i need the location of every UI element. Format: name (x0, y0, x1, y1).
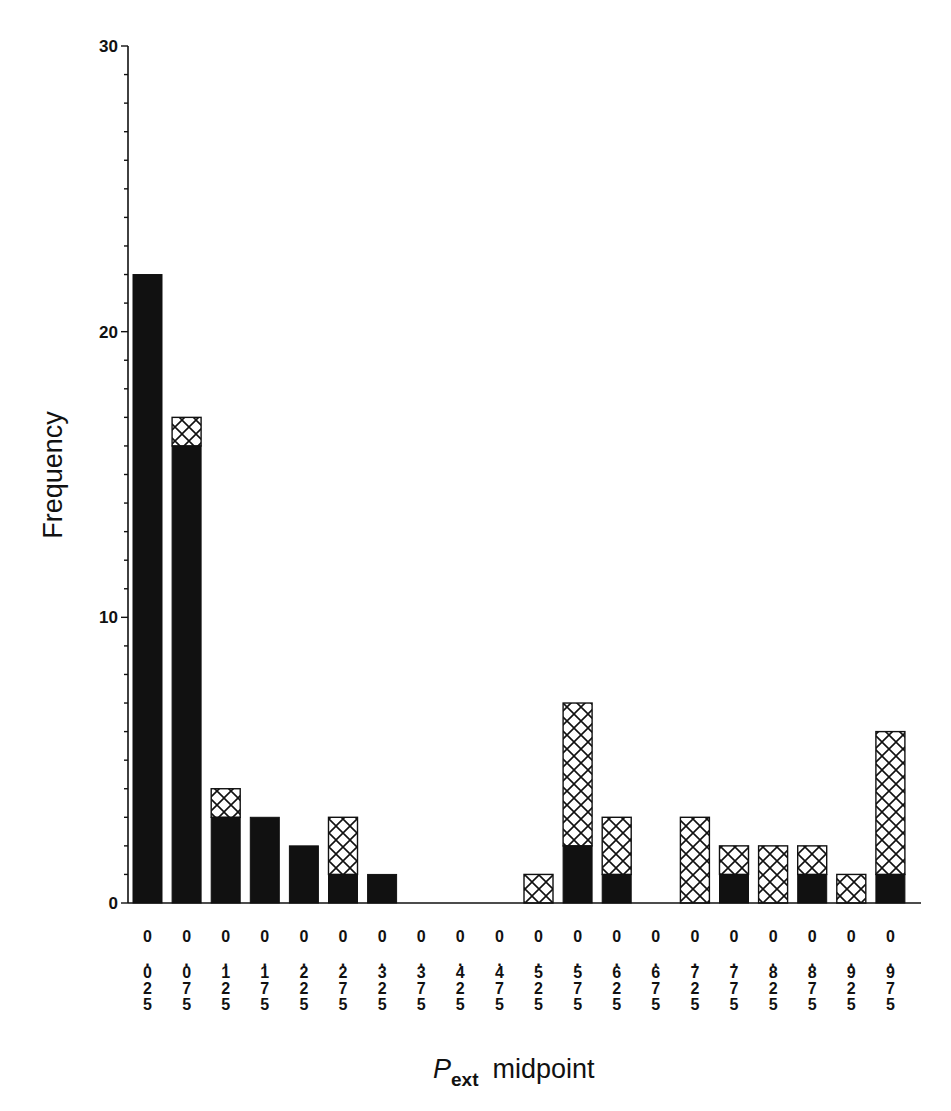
bar-segment-solid (289, 846, 318, 903)
x-tick-label: 0.725 (690, 928, 699, 1013)
bar-segment-solid (798, 874, 827, 903)
svg-text:7: 7 (730, 980, 739, 997)
svg-text:0: 0 (182, 928, 191, 945)
bar-segment-solid (563, 846, 592, 903)
y-tick-label: 20 (99, 323, 118, 342)
svg-text:0: 0 (182, 964, 191, 981)
svg-text:5: 5 (260, 996, 269, 1013)
svg-text:9: 9 (847, 964, 856, 981)
bar-0.625 (602, 817, 631, 903)
svg-text:1: 1 (260, 964, 269, 981)
bar-segment-solid (720, 874, 749, 903)
svg-text:0: 0 (847, 928, 856, 945)
svg-text:5: 5 (417, 996, 426, 1013)
bar-0.075 (172, 417, 201, 903)
svg-text:7: 7 (573, 980, 582, 997)
svg-text:0: 0 (378, 928, 387, 945)
svg-text:5: 5 (456, 996, 465, 1013)
bar-segment-solid (250, 817, 279, 903)
svg-text:0: 0 (690, 928, 699, 945)
svg-text:9: 9 (886, 964, 895, 981)
svg-text:3: 3 (417, 964, 426, 981)
svg-text:7: 7 (651, 980, 660, 997)
svg-text:0: 0 (299, 928, 308, 945)
svg-text:2: 2 (456, 980, 465, 997)
svg-text:1: 1 (221, 964, 230, 981)
svg-text:0: 0 (612, 928, 621, 945)
svg-text:2: 2 (847, 980, 856, 997)
bar-segment-solid (368, 874, 397, 903)
x-tick-label: 0.675 (651, 928, 660, 1013)
x-tick-label: 0.275 (339, 928, 348, 1013)
x-tick-label: 0.775 (730, 928, 739, 1013)
svg-text:3: 3 (378, 964, 387, 981)
x-axis: 0.0250.0750.1250.1750.2250.2750.3250.375… (128, 903, 921, 1013)
svg-text:5: 5 (221, 996, 230, 1013)
x-tick-label: 0.925 (847, 928, 856, 1013)
svg-text:8: 8 (808, 964, 817, 981)
bar-segment-hatched (837, 874, 866, 903)
bar-segment-solid (211, 817, 240, 903)
bar-0.175 (250, 817, 279, 903)
x-axis-title-rest: midpoint (492, 1054, 595, 1084)
x-tick-label: 0.025 (143, 928, 152, 1013)
bar-segment-hatched (172, 417, 201, 446)
svg-text:5: 5 (378, 996, 387, 1013)
svg-text:5: 5 (534, 964, 543, 981)
bar-segment-hatched (798, 846, 827, 875)
svg-text:2: 2 (143, 980, 152, 997)
y-axis: 0102030 (99, 37, 128, 913)
y-tick-label: 0 (109, 894, 118, 913)
x-tick-label: 0.875 (808, 928, 817, 1013)
svg-text:7: 7 (495, 980, 504, 997)
svg-text:6: 6 (612, 964, 621, 981)
svg-text:5: 5 (690, 996, 699, 1013)
x-tick-label: 0.375 (417, 928, 426, 1013)
svg-text:0: 0 (456, 928, 465, 945)
y-tick-label: 10 (99, 608, 118, 627)
x-tick-label: 0.125 (221, 928, 230, 1013)
svg-text:0: 0 (417, 928, 426, 945)
histogram-chart: 0102030 0.0250.0750.1250.1750.2250.2750.… (0, 0, 951, 1111)
svg-text:7: 7 (417, 980, 426, 997)
svg-text:5: 5 (808, 996, 817, 1013)
x-axis-title-main: P (433, 1054, 451, 1084)
x-tick-label: 0.325 (378, 928, 387, 1013)
bar-0.925 (837, 874, 866, 903)
bar-segment-hatched (602, 817, 631, 874)
y-tick-label: 30 (99, 37, 118, 56)
svg-text:8: 8 (769, 964, 778, 981)
x-tick-label: 0.625 (612, 928, 621, 1013)
svg-text:2: 2 (339, 964, 348, 981)
svg-text:0: 0 (573, 928, 582, 945)
bar-segment-hatched (680, 817, 709, 903)
svg-text:0: 0 (495, 928, 504, 945)
bar-0.125 (211, 789, 240, 903)
x-tick-label: 0.225 (299, 928, 308, 1013)
svg-text:7: 7 (182, 980, 191, 997)
svg-text:0: 0 (260, 928, 269, 945)
svg-text:2: 2 (690, 980, 699, 997)
svg-text:5: 5 (339, 996, 348, 1013)
bar-0.275 (329, 817, 358, 903)
svg-text:6: 6 (651, 964, 660, 981)
svg-text:0: 0 (808, 928, 817, 945)
svg-text:7: 7 (886, 980, 895, 997)
svg-text:7: 7 (260, 980, 269, 997)
svg-text:5: 5 (143, 996, 152, 1013)
x-tick-label: 0.075 (182, 928, 191, 1013)
svg-text:5: 5 (651, 996, 660, 1013)
bar-0.775 (720, 846, 749, 903)
x-axis-title-sub: ext (451, 1069, 479, 1090)
x-tick-label: 0.525 (534, 928, 543, 1013)
svg-text:2: 2 (612, 980, 621, 997)
svg-text:5: 5 (495, 996, 504, 1013)
bar-0.525 (524, 874, 553, 903)
bar-segment-hatched (524, 874, 553, 903)
x-tick-label: 0.475 (495, 928, 504, 1013)
svg-text:0: 0 (339, 928, 348, 945)
svg-text:2: 2 (221, 980, 230, 997)
x-tick-label: 0.825 (769, 928, 778, 1013)
svg-text:7: 7 (690, 964, 699, 981)
svg-text:0: 0 (886, 928, 895, 945)
